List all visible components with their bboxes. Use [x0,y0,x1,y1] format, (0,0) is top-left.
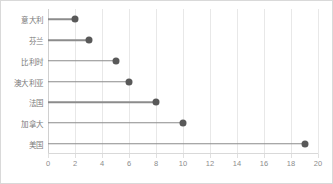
category-label: 比利时 [21,55,43,66]
x-tick-label: 4 [100,159,104,168]
tick-mark-12 [210,154,211,158]
lollipop-chart: 意大利芬兰比利时澳大利亚法国加拿大美国 02468101214161820 [0,0,333,184]
data-point-dot[interactable] [301,140,308,147]
tick-mark-18 [291,154,292,158]
x-tick-label: 20 [314,159,322,168]
x-tick-label: 0 [46,159,50,168]
data-point-dot[interactable] [180,119,187,126]
data-point-dot[interactable] [112,57,119,64]
x-tick-label: 18 [287,159,295,168]
tick-mark-14 [237,154,238,158]
gridline-20 [318,9,319,154]
stem-line [48,60,116,62]
gridline-16 [264,9,265,154]
data-point-dot[interactable] [72,16,79,23]
category-label: 意大利 [21,14,43,25]
x-tick-label: 6 [127,159,131,168]
x-tick-label: 8 [154,159,158,168]
gridline-8 [156,9,157,154]
category-label: 美国 [29,138,43,149]
tick-mark-10 [183,154,184,158]
data-point-dot[interactable] [126,78,133,85]
data-point-dot[interactable] [85,37,92,44]
gridline-18 [291,9,292,154]
x-tick-label: 2 [73,159,77,168]
tick-mark-4 [102,154,103,158]
stem-line [48,122,183,124]
category-label: 芬兰 [29,35,43,46]
x-tick-label: 12 [206,159,214,168]
category-label: 法国 [29,97,43,108]
gridline-10 [183,9,184,154]
stem-line [48,101,156,103]
category-label: 加拿大 [21,117,43,128]
tick-mark-2 [75,154,76,158]
tick-mark-20 [318,154,319,158]
stem-line [48,39,89,41]
category-label: 澳大利亚 [14,76,43,87]
data-point-dot[interactable] [153,99,160,106]
gridline-14 [237,9,238,154]
stem-line [48,143,305,145]
stem-line [48,81,129,83]
tick-mark-16 [264,154,265,158]
tick-mark-8 [156,154,157,158]
x-tick-label: 14 [233,159,241,168]
x-tick-label: 16 [260,159,268,168]
gridline-12 [210,9,211,154]
plot-area [48,9,318,154]
tick-mark-0 [48,154,49,158]
tick-mark-6 [129,154,130,158]
x-tick-label: 10 [179,159,187,168]
